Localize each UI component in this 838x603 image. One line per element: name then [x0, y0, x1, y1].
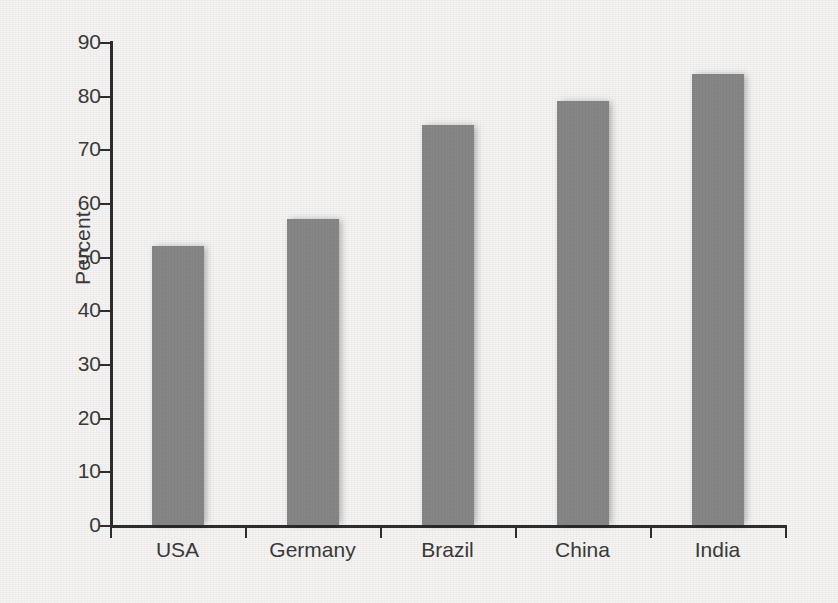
y-tick-label: 50 [78, 245, 101, 269]
x-tick-label-india: India [695, 538, 741, 562]
y-tick-label: 20 [78, 406, 101, 430]
bar-chart-figure: Percent 0102030405060708090 USAGermanyBr… [0, 0, 838, 603]
y-tick-label: 90 [78, 30, 101, 54]
x-tick-mark [245, 525, 247, 538]
x-tick-mark [380, 525, 382, 538]
y-tick-label: 10 [78, 459, 101, 483]
bar-usa [152, 246, 204, 525]
bar-china [557, 101, 609, 525]
y-tick-label: 60 [78, 191, 101, 215]
x-tick-label-brazil: Brazil [421, 538, 474, 562]
x-tick-mark [515, 525, 517, 538]
x-tick-mark [110, 525, 112, 538]
y-tick-label: 80 [78, 84, 101, 108]
bar-brazil [422, 125, 474, 525]
bar-india [692, 74, 744, 525]
x-tick-mark [650, 525, 652, 538]
x-tick-label-china: China [555, 538, 610, 562]
x-tick-label-germany: Germany [269, 538, 355, 562]
y-tick-label: 40 [78, 298, 101, 322]
y-tick-label: 30 [78, 352, 101, 376]
x-axis-line [110, 525, 786, 528]
bar-germany [287, 219, 339, 525]
x-tick-label-usa: USA [156, 538, 199, 562]
y-tick-label: 70 [78, 137, 101, 161]
y-tick-label: 0 [89, 513, 101, 537]
plot-area: 0102030405060708090 [110, 42, 785, 525]
x-tick-mark [785, 525, 787, 538]
